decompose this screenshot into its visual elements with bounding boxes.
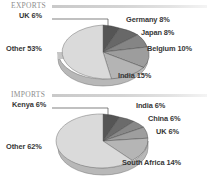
imports-label-china: China 6% [148,114,180,123]
exports-chart-panel: EXPORTS [0,0,215,90]
imports-label-other: Other 62% [6,142,42,151]
exports-label-germany: Germany 8% [126,15,170,24]
exports-label-india: India 15% [118,71,151,80]
exports-label-belgium: Belgium 10% [147,44,192,53]
imports-chart-panel: IMPORTS Kenya 6% [0,89,215,179]
imports-title-rule [52,94,207,97]
exports-label-uk: UK 6% [19,11,42,20]
exports-title-rule [52,5,207,8]
exports-label-japan: Japan 8% [141,28,174,37]
imports-label-kenya: Kenya 6% [12,100,46,109]
imports-label-uk: UK 6% [156,127,179,136]
imports-label-south-africa: South Africa 14% [122,158,181,167]
imports-pie-chart [0,98,215,179]
imports-label-india: India 6% [136,101,165,110]
exports-label-other: Other 53% [6,44,42,53]
